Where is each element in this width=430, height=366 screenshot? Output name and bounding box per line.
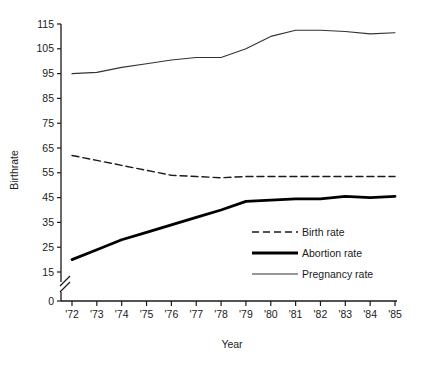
x-tick-label: '76	[165, 308, 179, 320]
y-tick-label: 95	[42, 67, 54, 79]
y-tick-label: 55	[42, 166, 54, 178]
x-tick-label: '83	[338, 308, 352, 320]
data-series-group	[72, 30, 395, 259]
y-tick-label: 25	[42, 241, 54, 253]
chart-legend: Birth rateAbortion ratePregnancy rate	[252, 226, 373, 280]
legend-label-pregnancy-rate: Pregnancy rate	[302, 268, 373, 280]
x-tick-label: '74	[115, 308, 129, 320]
x-tick-label: '78	[214, 308, 228, 320]
y-tick-label: 15	[42, 266, 54, 278]
line-chart: 0152535455565758595105115 Birthrate '72'…	[0, 0, 430, 366]
y-tick-label: 0	[48, 295, 54, 307]
y-tick-label: 35	[42, 216, 54, 228]
x-tick-label: '81	[289, 308, 303, 320]
x-axis-ticks	[72, 301, 395, 306]
y-tick-label: 45	[42, 191, 54, 203]
x-tick-label: '85	[388, 308, 402, 320]
series-line-birth-rate	[72, 155, 395, 177]
x-axis-group: '72'73'74'75'76'77'78'79'80'81'82'83'84'…	[61, 301, 402, 350]
series-line-pregnancy-rate	[72, 30, 395, 73]
x-axis-title: Year	[221, 338, 243, 350]
y-tick-label: 105	[36, 42, 54, 54]
x-tick-label: '72	[65, 308, 79, 320]
y-tick-label: 115	[37, 18, 54, 30]
y-axis-tick-labels: 0152535455565758595105115	[36, 18, 54, 307]
y-axis-group: 0152535455565758595105115 Birthrate	[8, 18, 70, 307]
x-tick-label: '84	[363, 308, 377, 320]
x-tick-label: '80	[264, 308, 278, 320]
x-tick-label: '79	[239, 308, 253, 320]
y-axis-title: Birthrate	[8, 150, 20, 190]
x-tick-label: '82	[314, 308, 328, 320]
x-tick-label: '73	[90, 308, 104, 320]
x-tick-label: '77	[189, 308, 203, 320]
legend-label-birth-rate: Birth rate	[302, 226, 345, 238]
chart-container: 0152535455565758595105115 Birthrate '72'…	[0, 0, 430, 366]
y-tick-label: 75	[42, 117, 54, 129]
y-tick-label: 85	[42, 92, 54, 104]
legend-label-abortion-rate: Abortion rate	[302, 247, 362, 259]
x-axis-tick-labels: '72'73'74'75'76'77'78'79'80'81'82'83'84'…	[65, 308, 402, 320]
y-tick-label: 65	[42, 142, 54, 154]
x-tick-label: '75	[140, 308, 154, 320]
